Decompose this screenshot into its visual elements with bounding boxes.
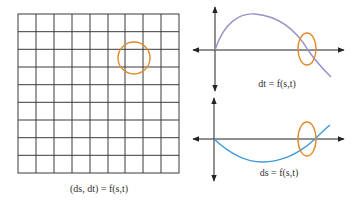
grid-border [18, 14, 179, 173]
grid-caption: (ds, dt) = f(s,t) [70, 183, 128, 195]
dt-plot-caption: dt = f(s,t) [258, 78, 296, 90]
diagram-canvas [0, 0, 361, 203]
ds-plot-caption: ds = f(s,t) [260, 167, 299, 179]
dt-curve [215, 14, 331, 77]
ds-curve [214, 125, 330, 162]
grid-panel [18, 14, 179, 173]
grid-highlight-circle [118, 42, 150, 74]
grid-horizontal-lines [18, 32, 179, 156]
grid-vertical-lines [36, 14, 161, 173]
